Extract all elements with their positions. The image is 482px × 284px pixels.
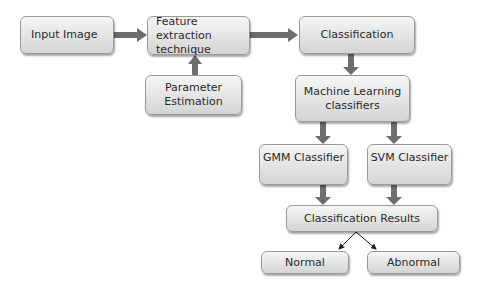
node-feature-extraction: Feature extraction technique: [147, 16, 250, 55]
node-gmm-classifier: GMM Classifier: [259, 144, 348, 185]
node-classification-results: Classification Results: [286, 205, 438, 232]
node-input-image: Input Image: [20, 16, 114, 54]
node-classification: Classification: [299, 16, 415, 54]
node-ml-classifiers: Machine Learning classifiers: [295, 75, 410, 122]
thin-arrows: [339, 232, 376, 249]
node-normal: Normal: [261, 251, 349, 274]
node-parameter-estimation: Parameter Estimation: [145, 75, 242, 115]
node-abnormal: Abnormal: [367, 251, 460, 274]
flowchart: Input Image Feature extraction technique…: [0, 0, 482, 284]
node-svm-classifier: SVM Classifier: [367, 144, 452, 185]
